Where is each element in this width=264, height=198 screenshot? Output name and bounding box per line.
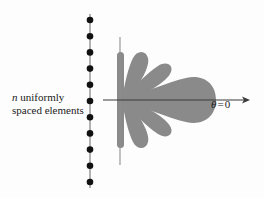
array-element-dot [87,114,94,121]
array-caption-line2: spaced elements [12,104,84,116]
theta-zero-label: θ=0 [211,98,230,111]
array-element-dot [87,65,94,72]
theta-value: 0 [225,98,231,110]
array-caption-text: n uniformly spaced elements [12,91,84,117]
array-element-dot [87,49,94,56]
array-caption-line1-rest: uniformly [18,91,65,103]
array-element-dot [87,163,94,170]
array-element-dot [87,33,94,40]
array-element-dot [87,179,94,186]
array-element-dot [87,82,94,89]
array-element-dot [87,146,94,153]
array-element-dot [87,98,94,105]
array-element-dot [87,17,94,24]
equals-sign: = [216,98,224,110]
array-element-dot [87,130,94,137]
